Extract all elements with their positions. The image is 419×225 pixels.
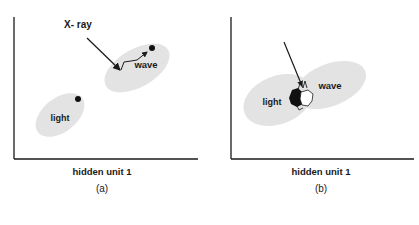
panel-a: light wave X- ray hidden unit 1 (a) bbox=[14, 17, 198, 194]
light-cluster-point bbox=[75, 96, 81, 102]
x-axis-label: hidden unit 1 bbox=[72, 166, 132, 177]
light-label: light bbox=[51, 113, 70, 123]
wave-label: wave bbox=[317, 80, 341, 91]
x-ray-label: X- ray bbox=[64, 19, 92, 30]
x-axis-label: hidden unit 1 bbox=[291, 166, 351, 177]
light-label: light bbox=[263, 97, 282, 107]
panel-caption: (b) bbox=[315, 183, 327, 194]
panel-caption: (a) bbox=[96, 183, 108, 194]
x-ray-arrow bbox=[87, 38, 120, 70]
figure-canvas: light wave X- ray hidden unit 1 (a) ligh… bbox=[0, 0, 419, 225]
panel-b: light wave hidden unit 1 (b) bbox=[231, 17, 414, 194]
wave-cluster-point bbox=[149, 45, 155, 51]
wave-label: wave bbox=[133, 59, 157, 70]
